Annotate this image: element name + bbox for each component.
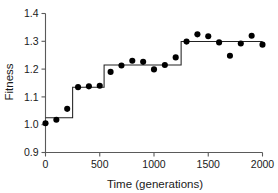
y-tick-label: 1.2	[24, 63, 39, 75]
data-point	[238, 40, 244, 46]
data-point	[162, 62, 168, 68]
data-point	[42, 120, 48, 126]
data-point	[259, 42, 265, 48]
x-tick-label: 1000	[142, 158, 166, 170]
data-point	[249, 33, 255, 39]
y-tick-label: 0.9	[24, 146, 39, 158]
data-point	[129, 58, 135, 64]
data-point	[194, 31, 200, 37]
data-point	[118, 62, 124, 68]
x-tick-label: 2000	[251, 158, 275, 170]
x-axis-title: Time (generations)	[107, 178, 203, 190]
data-point	[173, 54, 179, 60]
y-tick-label: 1.4	[24, 7, 39, 19]
y-tick-labels: 0.91.01.11.21.31.4	[24, 7, 39, 158]
data-point	[53, 117, 59, 123]
data-point	[205, 33, 211, 39]
data-point	[75, 84, 81, 90]
y-tick-label: 1.3	[24, 35, 39, 47]
tick-marks	[42, 14, 263, 157]
axes	[46, 14, 263, 153]
scatter-points	[42, 31, 265, 126]
data-point	[151, 66, 157, 72]
data-point	[184, 39, 190, 45]
data-point	[108, 69, 114, 75]
data-point	[227, 53, 233, 59]
data-point	[86, 83, 92, 89]
x-tick-label: 1500	[197, 158, 221, 170]
y-axis-title: Fitness	[3, 63, 15, 100]
data-point	[97, 83, 103, 89]
y-tick-label: 1.0	[24, 118, 39, 130]
y-tick-label: 1.1	[24, 91, 39, 103]
x-tick-label: 500	[91, 158, 109, 170]
fitness-step-chart: 0.91.01.11.21.31.4 0500100015002000 Time…	[0, 0, 278, 193]
chart-canvas: 0.91.01.11.21.31.4 0500100015002000 Time…	[0, 0, 278, 193]
axis-spines	[46, 14, 263, 153]
x-tick-labels: 0500100015002000	[43, 158, 275, 170]
data-point	[140, 59, 146, 65]
data-point	[216, 39, 222, 45]
data-point	[64, 106, 70, 112]
x-tick-label: 0	[43, 158, 49, 170]
